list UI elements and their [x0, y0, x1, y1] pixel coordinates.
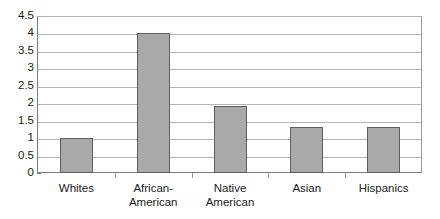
x-axis-tick-mark: [345, 173, 346, 178]
y-axis-tick-label: 2.5: [0, 80, 34, 92]
y-axis-tick-labels: 00.511.522.533.544.5: [0, 16, 34, 173]
x-axis-tick-mark: [268, 173, 269, 178]
y-axis-tick-label: 4: [0, 28, 34, 40]
bar-chart: 00.511.522.533.544.5 WhitesAfrican-Ameri…: [0, 0, 440, 219]
y-axis-tick-label: 3.5: [0, 45, 34, 57]
x-axis-category-labels: WhitesAfrican-AmericanNative AmericanAsi…: [38, 181, 422, 219]
y-axis-tick-label: 1.5: [0, 115, 34, 127]
bar: [214, 106, 247, 173]
x-axis-category-label: Hispanics: [345, 181, 422, 195]
y-axis-tick-mark: [37, 173, 41, 174]
bar: [137, 33, 170, 173]
bar: [367, 127, 400, 173]
bar: [290, 127, 323, 173]
x-axis-category-label: African-American: [115, 181, 192, 209]
y-axis-tick-label: 0.5: [0, 150, 34, 162]
x-axis-category-label: Whites: [38, 181, 115, 195]
x-axis-tick-mark: [115, 173, 116, 178]
bars-layer: [38, 16, 422, 173]
y-axis-tick-label: 4.5: [0, 10, 34, 22]
y-axis-tick-label: 3: [0, 63, 34, 75]
y-axis-tick-label: 0: [0, 167, 34, 179]
y-axis-tick-label: 2: [0, 97, 34, 109]
y-axis-tick-label: 1: [0, 132, 34, 144]
x-axis-category-label: Asian: [268, 181, 345, 195]
x-axis-tick-mark: [192, 173, 193, 178]
bar: [60, 138, 93, 173]
x-axis-category-label: Native American: [192, 181, 269, 209]
